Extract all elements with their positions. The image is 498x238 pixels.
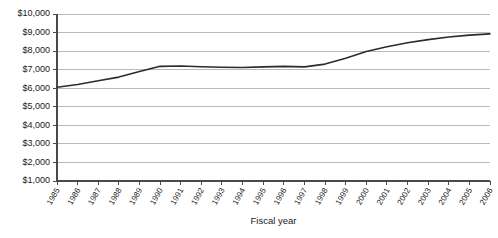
- x-tick-label: 2001: [375, 186, 392, 206]
- x-tick-label: 2006: [478, 186, 495, 206]
- x-tick-label: 1993: [210, 186, 227, 206]
- y-tick-label: $1,000: [22, 175, 50, 185]
- x-axis-labels: 1985198619871988198919901991199219931994…: [45, 186, 495, 206]
- x-tick-label: 1999: [334, 186, 351, 206]
- x-tick-label: 1988: [107, 186, 124, 206]
- x-tick-label: 2005: [457, 186, 474, 206]
- x-tick-label: 1998: [313, 186, 330, 206]
- x-tick-label: 2000: [354, 186, 371, 206]
- y-axis-labels: $1,000$2,000$3,000$4,000$5,000$6,000$7,0…: [17, 8, 50, 185]
- x-tick-label: 1989: [128, 186, 145, 206]
- x-tick-label: 1987: [86, 186, 103, 206]
- x-tick-label: 1986: [66, 186, 83, 206]
- line-chart: $1,000$2,000$3,000$4,000$5,000$6,000$7,0…: [0, 0, 498, 238]
- y-tick-label: $5,000: [22, 101, 50, 111]
- x-tick-label: 1997: [292, 186, 309, 206]
- x-tick-label: 2002: [396, 186, 413, 206]
- chart-canvas: $1,000$2,000$3,000$4,000$5,000$6,000$7,0…: [0, 0, 498, 238]
- y-tick-label: $3,000: [22, 138, 50, 148]
- x-tick-label: 2004: [437, 186, 454, 206]
- y-tick-label: $4,000: [22, 120, 50, 130]
- x-tick-label: 1996: [272, 186, 289, 206]
- x-tick-label: 1992: [189, 186, 206, 206]
- y-tick-label: $8,000: [22, 45, 50, 55]
- y-axis-ticks: [53, 14, 57, 181]
- y-tick-label: $9,000: [22, 27, 50, 37]
- y-tick-label: $6,000: [22, 83, 50, 93]
- gridlines: [57, 14, 490, 181]
- x-tick-label: 1995: [251, 186, 268, 206]
- x-tick-label: 1994: [231, 186, 248, 206]
- x-axis-ticks: [57, 181, 490, 185]
- data-series-line: [57, 34, 490, 87]
- x-axis-title: Fiscal year: [251, 215, 297, 226]
- y-tick-label: $7,000: [22, 64, 50, 74]
- x-tick-label: 1991: [169, 186, 186, 206]
- x-tick-label: 1985: [45, 186, 62, 206]
- y-tick-label: $10,000: [17, 8, 50, 18]
- y-tick-label: $2,000: [22, 157, 50, 167]
- x-tick-label: 1990: [148, 186, 165, 206]
- x-tick-label: 2003: [416, 186, 433, 206]
